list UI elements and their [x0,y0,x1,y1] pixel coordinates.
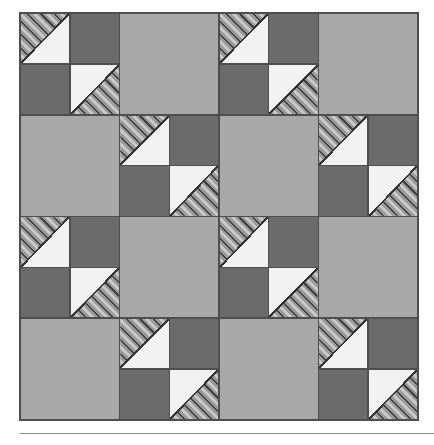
quarter-solid-dark [120,166,168,215]
quarter-hst-upper-left [319,116,367,165]
quarter-solid-dark [369,319,417,368]
block-r4c4 [319,319,417,419]
quarter-solid-dark [269,14,317,63]
quarter-solid-dark [319,166,367,215]
quarter-hst-lower-right [71,268,119,317]
quarter-solid-dark [71,217,119,266]
block-r3c2 [120,217,218,317]
page-root [0,0,434,445]
quarter-solid-dark [319,370,367,419]
block-r1c2 [120,14,218,114]
block-r2c1 [21,116,119,216]
block-r4c3 [220,319,318,419]
quarter-hst-lower-right [71,65,119,114]
block-r2c3 [220,116,318,216]
block-r1c3 [220,14,318,114]
quilt-figure [19,12,419,421]
quarter-solid-dark [21,65,69,114]
quilt-grid [19,12,419,421]
quarter-hst-lower-right [369,166,417,215]
quarter-hst-upper-left [21,217,69,266]
quarter-hst-lower-right [369,370,417,419]
quarter-solid-dark [71,14,119,63]
block-r1c1 [21,14,119,114]
block-r2c4 [319,116,417,216]
quarter-hst-upper-left [120,319,168,368]
block-r3c4 [319,217,417,317]
quarter-solid-dark [369,116,417,165]
caption-divider-rule [20,433,434,434]
quarter-solid-dark [21,268,69,317]
quarter-hst-lower-right [269,268,317,317]
quarter-solid-dark [120,370,168,419]
quarter-hst-upper-left [319,319,367,368]
quarter-solid-dark [170,319,218,368]
block-r1c4 [319,14,417,114]
quarter-hst-upper-left [21,14,69,63]
quarter-solid-dark [220,268,268,317]
quarter-solid-dark [170,116,218,165]
block-r4c1 [21,319,119,419]
quarter-solid-dark [220,65,268,114]
quarter-hst-lower-right [170,166,218,215]
block-r3c1 [21,217,119,317]
quarter-hst-upper-left [220,14,268,63]
quarter-hst-upper-left [120,116,168,165]
quarter-solid-dark [269,217,317,266]
block-r4c2 [120,319,218,419]
quarter-hst-upper-left [220,217,268,266]
block-r2c2 [120,116,218,216]
quarter-hst-lower-right [170,370,218,419]
quarter-hst-lower-right [269,65,317,114]
block-r3c3 [220,217,318,317]
